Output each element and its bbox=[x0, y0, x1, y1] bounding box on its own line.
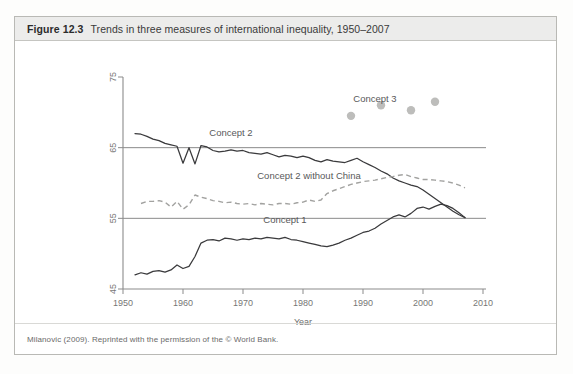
chart-plot-area: 455565751950196019701980199020002010Year… bbox=[15, 41, 556, 331]
label-concept-2-without-china: Concept 2 without China bbox=[257, 170, 361, 181]
concept3-data-point bbox=[347, 112, 355, 120]
x-tick-label-2010: 2010 bbox=[473, 298, 493, 308]
source-note: Milanovic (2009). Reprinted with the per… bbox=[27, 335, 278, 344]
figure-container: Figure 12.3 Trends in three measures of … bbox=[14, 16, 557, 355]
figure-header: Figure 12.3 Trends in three measures of … bbox=[15, 17, 556, 41]
inequality-line-chart: 455565751950196019701980199020002010Year… bbox=[15, 41, 556, 331]
figure-number: Figure 12.3 bbox=[27, 23, 84, 35]
x-tick-label-2000: 2000 bbox=[413, 298, 433, 308]
x-tick-label-1970: 1970 bbox=[233, 298, 253, 308]
y-tick-label-75: 75 bbox=[108, 72, 118, 82]
concept3-data-point bbox=[431, 98, 439, 106]
y-tick-label-55: 55 bbox=[108, 213, 118, 223]
x-tick-label-1980: 1980 bbox=[293, 298, 313, 308]
label-concept-3: Concept 3 bbox=[353, 93, 396, 104]
concept3-data-point bbox=[407, 106, 415, 114]
figure-title: Trends in three measures of internationa… bbox=[91, 23, 390, 35]
label-concept-1: Concept 1 bbox=[263, 214, 306, 225]
figure-page: Figure 12.3 Trends in three measures of … bbox=[0, 0, 573, 374]
x-tick-label-1950: 1950 bbox=[113, 298, 133, 308]
y-tick-label-45: 45 bbox=[108, 284, 118, 294]
x-tick-label-1990: 1990 bbox=[353, 298, 373, 308]
x-axis-title: Year bbox=[294, 317, 312, 327]
y-tick-label-65: 65 bbox=[108, 143, 118, 153]
footer-divider bbox=[15, 323, 556, 324]
label-concept-2: Concept 2 bbox=[209, 127, 252, 138]
x-tick-label-1960: 1960 bbox=[173, 298, 193, 308]
